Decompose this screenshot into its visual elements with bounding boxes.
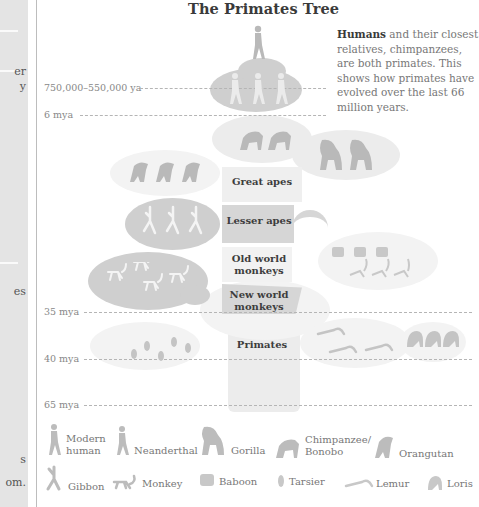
legend-item-loris: Loris (426, 474, 473, 490)
legend-item-baboon: Baboon (199, 472, 257, 488)
label-great-apes: Great apes (224, 176, 300, 188)
legend-label: Baboon (219, 476, 257, 488)
label-old-world-monkeys: Old world monkeys (214, 253, 304, 277)
timeline-label: 6 mya (44, 109, 73, 120)
legend-item-orangutan: Orangutan (373, 434, 454, 458)
loris-group-icon (405, 329, 461, 347)
panel-rule (0, 30, 18, 32)
panel-rule (0, 262, 18, 264)
legend-label: Neanderthal (134, 445, 198, 457)
neanderthal-group-icon (226, 72, 296, 106)
column-divider (36, 0, 37, 507)
legend-item-lemur: Lemur (344, 476, 409, 490)
baboon-icon (199, 472, 215, 488)
legend-label: Lemur (376, 478, 409, 490)
panel-text-fragment: y (20, 80, 26, 93)
timeline-line (84, 405, 472, 406)
gorilla-group-icon (318, 138, 378, 172)
legend-label: Monkey (142, 478, 182, 490)
label-primates: Primates (224, 339, 300, 351)
monkey-icon (112, 474, 138, 490)
left-sidebar-panel: er y es s om. (0, 0, 28, 507)
new-world-monkey-group-icon (104, 262, 194, 298)
legend-item-monkey: Monkey (112, 474, 182, 490)
loris-icon (426, 474, 444, 490)
lemur-group-icon (316, 322, 398, 358)
panel-text-fragment: s (20, 453, 26, 466)
legend-label: Chimpanzee/ Bonobo (305, 434, 373, 458)
orangutan-group-icon (126, 160, 206, 184)
tarsier-icon (277, 474, 285, 488)
branch-hook (292, 210, 328, 228)
chimpanzee-group-icon (238, 128, 294, 152)
legend-item-chimpanzee: Chimpanzee/ Bonobo (274, 434, 373, 458)
legend-label: Tarsier (289, 476, 325, 488)
gorilla-icon (200, 425, 228, 457)
label-lesser-apes: Lesser apes (224, 215, 294, 227)
legend-item-gibbon: Gibbon (44, 465, 104, 493)
legend-label: Modern human (66, 433, 104, 457)
intro-bold: Humans (337, 28, 386, 40)
panel-text-fragment: es (14, 285, 26, 298)
legend-item-gorilla: Gorilla (200, 425, 265, 457)
lemur-icon (344, 476, 374, 490)
timeline-label: 750,000–550,000 ya (44, 82, 141, 93)
orangutan-icon (373, 434, 395, 458)
intro-text: Humans and their closest relatives, chim… (337, 27, 479, 114)
gibbon-icon (44, 465, 64, 493)
timeline-label: 65 mya (44, 399, 79, 410)
legend-label: Gibbon (68, 481, 104, 493)
timeline-line (80, 115, 326, 116)
neanderthal-icon (114, 425, 130, 457)
panel-text-fragment: er (14, 65, 26, 78)
tarsier-group-icon (128, 330, 192, 364)
modern-human-icon (44, 423, 62, 457)
timeline-label: 40 mya (44, 353, 79, 364)
intro-body: and their closest relatives, chimpanzees… (337, 28, 478, 113)
old-world-monkey-group-icon (330, 245, 410, 285)
legend-label: Orangutan (399, 448, 454, 460)
modern-human-icon (248, 25, 266, 61)
legend-label: Loris (447, 478, 473, 490)
label-new-world-monkeys: New world monkeys (214, 289, 304, 313)
legend-item-neanderthal: Neanderthal (114, 425, 198, 457)
legend-item-tarsier: Tarsier (277, 474, 325, 488)
gibbon-group-icon (140, 205, 210, 245)
timeline-label: 35 mya (44, 306, 79, 317)
legend-item-modern-human: Modern human (44, 423, 104, 457)
chimpanzee-icon (274, 436, 302, 458)
diagram-title: The Primates Tree (188, 0, 339, 17)
legend-label: Gorilla (231, 445, 265, 457)
panel-text-fragment: om. (5, 476, 26, 489)
